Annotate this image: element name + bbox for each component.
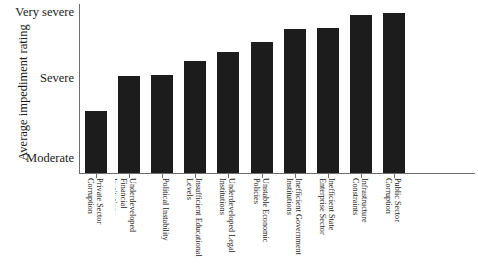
x-axis-category-label: Underdeveloped FinancialInstitutions: [115, 178, 137, 264]
x-axis-category-label: Inefficient StateEnterprise Sector: [314, 178, 336, 264]
y-tick-label: Very severe: [15, 6, 74, 19]
bar: [118, 76, 140, 173]
bar-chart-figure: Average impediment rating Very severeSev…: [0, 0, 478, 267]
x-axis-category-label: Underdeveloped LegalInstitutions: [214, 178, 236, 264]
bar: [217, 52, 239, 173]
bar: [317, 28, 339, 173]
x-axis-line: [79, 173, 475, 174]
bar: [284, 29, 306, 173]
x-axis-category-label: Private SectorCorruption: [82, 178, 104, 264]
bar: [350, 15, 372, 173]
bar: [383, 13, 405, 173]
y-tick-label: Severe: [40, 72, 74, 85]
x-axis-category-label: Public SectorCorruption: [380, 178, 402, 264]
x-axis-category-label: Inefficient GovernmentInstitutions: [281, 178, 303, 264]
x-axis-category-label: InfrastructureConstraints: [347, 178, 369, 264]
y-axis-line: [79, 4, 80, 174]
x-axis-category-labels: Private SectorCorruptionUnderdeveloped F…: [79, 178, 475, 267]
bar: [85, 111, 107, 173]
clipped-title-text: [0, 0, 478, 2]
bar: [251, 42, 273, 173]
x-axis-category-label: Insufficient EducationalLevels: [181, 178, 203, 264]
plot-area: Very severeSevereModerate: [79, 4, 475, 174]
bar: [151, 75, 173, 173]
y-tick-label: Moderate: [26, 152, 74, 165]
x-axis-category-label: Political Instability: [148, 178, 170, 264]
bar: [184, 61, 206, 173]
x-axis-category-label: Unstable EconomicPolicies: [248, 178, 270, 264]
